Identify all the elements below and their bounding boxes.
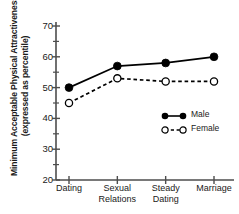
data-point-female — [162, 78, 169, 85]
data-point-male — [162, 59, 170, 67]
chart-legend: Male Female — [160, 107, 236, 135]
series-line-male — [69, 57, 214, 88]
legend-item-female: Female — [160, 121, 236, 135]
x-tick-label-line: Steady — [152, 183, 180, 194]
series-line-female — [69, 78, 214, 103]
legend-swatch-female — [160, 122, 188, 134]
x-tick-label-line: Sexual — [99, 183, 137, 194]
x-tick-label: Marriage — [196, 183, 232, 194]
x-axis-tick-labels: DatingSexualRelationsSteadyDatingMarriag… — [0, 183, 239, 213]
data-point-female — [210, 78, 217, 85]
legend-swatch-male — [160, 108, 188, 120]
x-tick-label-line: Dating — [152, 194, 180, 205]
x-tick-label-line: Dating — [56, 183, 82, 194]
chart-figure: Minimum Acceptable Physical Attractivene… — [0, 0, 239, 214]
x-tick-label-line: Marriage — [196, 183, 232, 194]
data-point-male — [113, 62, 121, 70]
x-tick-label: Dating — [56, 183, 82, 194]
legend-item-male: Male — [160, 107, 236, 121]
data-point-female — [65, 99, 72, 106]
legend-label-female: Female — [191, 123, 219, 133]
series-lines — [69, 57, 214, 103]
data-point-male — [65, 84, 73, 92]
legend-label-male: Male — [191, 109, 209, 119]
x-tick-label: SteadyDating — [152, 183, 180, 205]
x-tick-label-line: Relations — [99, 194, 137, 205]
data-point-female — [114, 75, 121, 82]
data-point-male — [210, 53, 218, 61]
x-tick-label: SexualRelations — [99, 183, 137, 205]
